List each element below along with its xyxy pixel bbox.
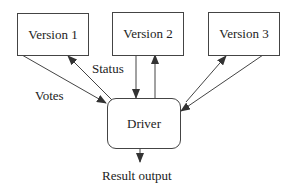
version1-node: Version 1: [17, 13, 89, 56]
version2-node: Version 2: [112, 12, 184, 56]
result-output-label: Result output: [102, 168, 172, 184]
votes-label: Votes: [35, 88, 64, 104]
version1-label: Version 1: [28, 27, 77, 43]
version3-node: Version 3: [208, 12, 280, 56]
version3-to-driver-arrow: [181, 55, 263, 111]
driver-label: Driver: [127, 116, 161, 132]
status-label: Status: [92, 61, 124, 77]
driver-to-version3-arrow: [186, 56, 226, 102]
version3-label: Version 3: [219, 26, 268, 42]
version2-label: Version 2: [123, 26, 172, 42]
driver-node: Driver: [107, 98, 181, 149]
